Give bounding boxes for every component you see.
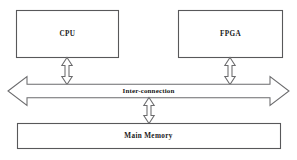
node-fpga: FPGA (179, 11, 283, 58)
connector-bus-to-main-memory (144, 98, 154, 124)
connector-cpu-to-bus (62, 58, 72, 85)
node-main-memory: Main Memory (18, 124, 281, 149)
connector-fpga-to-bus (225, 58, 235, 85)
diagram-canvas: CPU FPGA Inter-connection Main Memory (0, 0, 297, 160)
node-cpu: CPU (17, 11, 119, 58)
cpu-label: CPU (60, 30, 76, 38)
fpga-label: FPGA (220, 30, 241, 38)
double-arrow-vertical-icon (62, 58, 72, 85)
double-arrow-vertical-icon (144, 98, 154, 124)
interconnection-label: Inter-connection (123, 87, 175, 95)
double-arrow-vertical-icon (225, 58, 235, 85)
main-memory-label: Main Memory (124, 132, 172, 140)
architecture-diagram: CPU FPGA Inter-connection Main Memory (0, 0, 297, 160)
